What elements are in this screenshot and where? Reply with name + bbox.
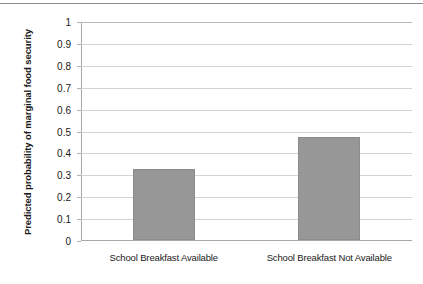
top-divider-rule <box>0 3 423 4</box>
y-axis-tick-label: 0.1 <box>57 214 71 225</box>
y-axis-tick-mark <box>77 241 81 242</box>
bar-chart-figure: Predicted probability of marginal food s… <box>0 0 423 284</box>
y-axis-tick-mark <box>77 110 81 111</box>
x-axis-line <box>81 240 412 241</box>
gridline <box>81 219 412 220</box>
bar <box>133 169 195 240</box>
y-axis-tick-mark <box>77 44 81 45</box>
y-axis-tick-mark <box>77 132 81 133</box>
y-axis-tick-mark <box>77 219 81 220</box>
gridline <box>81 175 412 176</box>
y-axis-tick-label: 0.6 <box>57 104 71 115</box>
gridline <box>81 22 412 23</box>
gridline <box>81 132 412 133</box>
y-axis-tick-label: 0.3 <box>57 170 71 181</box>
bar <box>298 137 360 240</box>
gridline <box>81 88 412 89</box>
y-axis-tick-label: 0.7 <box>57 82 71 93</box>
y-axis-tick-label: 0.8 <box>57 60 71 71</box>
y-axis-tick-mark <box>77 88 81 89</box>
gridline <box>81 110 412 111</box>
plot-area <box>81 22 412 241</box>
x-axis-category-labels: School Breakfast AvailableSchool Breakfa… <box>81 252 412 272</box>
y-axis-tick-mark <box>77 66 81 67</box>
y-axis-title: Predicted probability of marginal food s… <box>10 22 44 241</box>
x-axis-category-label: School Breakfast Available <box>110 252 218 263</box>
y-axis-tick-label: 0 <box>65 236 71 247</box>
y-axis-tick-mark <box>77 153 81 154</box>
y-axis-tick-label: 1 <box>65 17 71 28</box>
y-axis-title-text: Predicted probability of marginal food s… <box>21 24 34 239</box>
y-axis-tick-mark <box>77 197 81 198</box>
y-axis-tick-label: 0.2 <box>57 192 71 203</box>
y-axis-tick-label: 0.5 <box>57 126 71 137</box>
gridline <box>81 44 412 45</box>
gridline <box>81 197 412 198</box>
y-axis-tick-label: 0.4 <box>57 148 71 159</box>
gridline <box>81 66 412 67</box>
y-axis-tick-mark <box>77 175 81 176</box>
y-axis-tick-mark <box>77 22 81 23</box>
x-axis-category-label: School Breakfast Not Available <box>267 252 392 263</box>
gridline <box>81 153 412 154</box>
y-axis-tick-label: 0.9 <box>57 38 71 49</box>
y-axis-tick-labels: 00.10.20.30.40.50.60.70.80.91 <box>44 22 76 241</box>
